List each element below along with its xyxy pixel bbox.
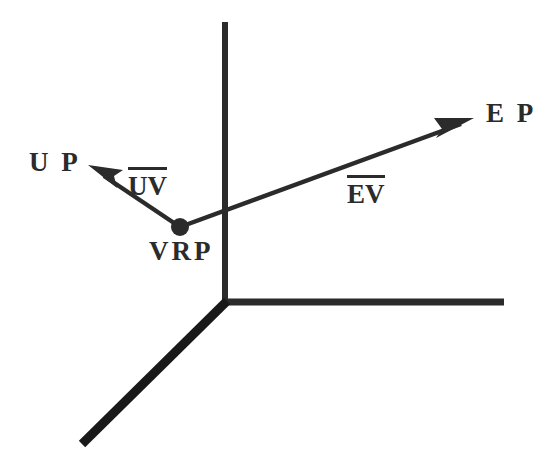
label-uv-vector: UV [128,167,167,200]
vrp-point-icon [171,218,189,236]
label-up: U P [29,149,81,176]
axes-group [82,22,504,444]
label-vrp: VRP [149,238,214,265]
label-ev-vector: EV [347,175,385,208]
diagram-canvas [0,0,557,468]
vector-diagram: E P U P VRP UV EV [0,0,557,468]
depth-axis [82,301,227,444]
ep-arrowhead-icon [434,118,474,138]
label-ep: E P [486,100,536,127]
